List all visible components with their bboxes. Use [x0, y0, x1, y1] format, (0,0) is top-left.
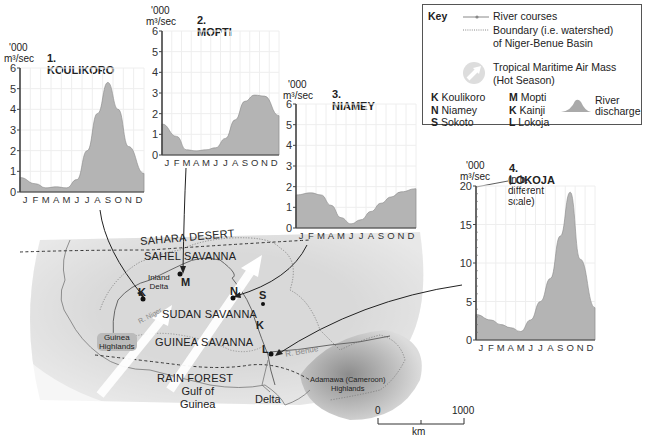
svg-text:6: 6 — [152, 25, 158, 37]
svg-text:1: 1 — [286, 201, 292, 213]
svg-text:F: F — [33, 194, 39, 205]
svg-text:J: J — [213, 157, 218, 168]
key-river-discharge: Riverdischarge — [595, 95, 641, 117]
svg-text:6: 6 — [10, 62, 16, 74]
svg-text:A: A — [508, 342, 515, 353]
svg-text:0: 0 — [466, 334, 472, 346]
region-rain-forest: RAIN FOREST — [157, 372, 233, 384]
air-mass-arrow-icon — [461, 61, 487, 85]
key-station-kainji: K Kainji — [509, 104, 545, 117]
svg-text:4: 4 — [10, 103, 16, 115]
svg-text:J: J — [538, 342, 543, 353]
svg-text:M: M — [63, 194, 71, 205]
svg-text:4: 4 — [152, 66, 158, 78]
svg-text:S: S — [105, 194, 111, 205]
key-boundary: Boundary (i.e. watershed)of Niger-Benue … — [493, 24, 613, 49]
label-adamawa-highlands: Adamawa (Cameroon)Highlands — [310, 375, 385, 393]
svg-text:J: J — [479, 342, 484, 353]
svg-text:M: M — [42, 194, 50, 205]
marker-niamey: N — [230, 285, 238, 297]
svg-text:F: F — [308, 230, 314, 241]
station-dot-lokoja — [269, 352, 274, 357]
svg-text:A: A — [193, 157, 200, 168]
svg-text:0: 0 — [286, 222, 292, 234]
svg-text:1: 1 — [152, 128, 158, 140]
svg-text:N: N — [261, 157, 268, 168]
svg-text:2: 2 — [152, 108, 158, 120]
svg-text:J: J — [74, 194, 79, 205]
svg-text:D: D — [587, 342, 594, 353]
svg-text:5: 5 — [466, 296, 472, 308]
y-unit-3: '000 — [288, 79, 307, 90]
svg-text:D: D — [408, 230, 415, 241]
svg-text:2: 2 — [286, 181, 292, 193]
svg-text:5: 5 — [286, 119, 292, 131]
svg-text:O: O — [251, 157, 258, 168]
svg-text:S: S — [378, 230, 384, 241]
y-unit-4: '000 — [466, 160, 485, 171]
svg-text:A: A — [547, 342, 554, 353]
svg-text:5: 5 — [10, 83, 16, 95]
svg-text:3: 3 — [152, 87, 158, 99]
svg-text:M: M — [182, 157, 190, 168]
svg-text:J: J — [299, 230, 304, 241]
region-sudan-savanna: SUDAN SAVANNA — [162, 308, 257, 320]
svg-text:S: S — [557, 342, 563, 353]
svg-text:6: 6 — [286, 98, 292, 110]
svg-text:A: A — [53, 194, 60, 205]
legend-key: Key River courses Boundary (i.e. watersh… — [422, 4, 642, 125]
svg-text:A: A — [368, 230, 375, 241]
svg-text:10: 10 — [460, 257, 472, 269]
svg-text:N: N — [398, 230, 405, 241]
station-dot-sokoto — [261, 302, 265, 306]
svg-text:20: 20 — [460, 180, 472, 192]
marker-kainji: K — [256, 319, 264, 331]
svg-text:J: J — [359, 230, 364, 241]
key-station-niamey: N Niamey — [431, 104, 477, 117]
svg-text:N: N — [577, 342, 584, 353]
svg-text:5: 5 — [152, 46, 158, 58]
river-discharge-icon — [561, 98, 591, 112]
svg-text:M: M — [497, 342, 505, 353]
y-unit-1: '000 — [9, 42, 28, 53]
key-station-lokoja: L Lokoja — [509, 117, 549, 127]
marker-sokoto: S — [259, 289, 266, 301]
svg-text:F: F — [174, 157, 180, 168]
svg-text:0: 0 — [10, 186, 16, 198]
svg-text:A: A — [328, 230, 335, 241]
key-air-mass: Tropical Maritime Air Mass(Hot Season) — [493, 61, 616, 86]
key-station-mopti: M Mopti — [509, 91, 546, 104]
label-gulf-of-guinea: Gulf ofGuinea — [180, 385, 215, 411]
svg-text:J: J — [85, 194, 90, 205]
key-station-sokoto: S Sokoto — [431, 117, 474, 127]
scale-unit: km — [412, 426, 425, 437]
svg-text:O: O — [387, 230, 394, 241]
svg-text:J: J — [528, 342, 533, 353]
svg-text:3: 3 — [286, 160, 292, 172]
svg-text:S: S — [242, 157, 248, 168]
label-delta: Delta — [255, 393, 281, 405]
svg-text:D: D — [135, 194, 142, 205]
svg-text:O: O — [114, 194, 121, 205]
svg-text:M: M — [517, 342, 525, 353]
svg-text:A: A — [94, 194, 101, 205]
river-course-icon — [463, 13, 489, 21]
key-station-koulikoro: K Koulikoro — [431, 91, 485, 104]
svg-text:O: O — [567, 342, 574, 353]
svg-text:M: M — [202, 157, 210, 168]
marker-koulikoro: K — [138, 286, 146, 298]
svg-text:J: J — [223, 157, 228, 168]
scale-start: 0 — [375, 405, 381, 416]
svg-text:0: 0 — [152, 149, 158, 161]
svg-text:F: F — [488, 342, 494, 353]
marker-mopti: M — [181, 276, 190, 288]
svg-text:4: 4 — [286, 139, 292, 151]
boundary-line-icon — [463, 28, 489, 32]
svg-text:15: 15 — [460, 219, 472, 231]
svg-text:J: J — [349, 230, 354, 241]
region-guinea-savanna: GUINEA SAVANNA — [155, 336, 253, 348]
svg-text:J: J — [23, 194, 28, 205]
scale-bar — [378, 418, 464, 424]
label-inland-delta: InlandDelta — [148, 273, 170, 291]
region-sahel-savanna: SAHEL SAVANNA — [144, 250, 236, 262]
